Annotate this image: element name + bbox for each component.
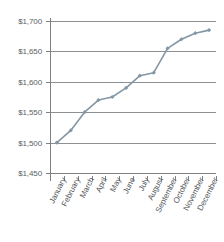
line-chart: $1,450$1,500$1,550$1,600$1,650$1,700 Jan… xyxy=(0,0,224,242)
y-axis-labels: $1,450$1,500$1,550$1,600$1,650$1,700 xyxy=(0,0,46,242)
y-axis-tick-label: $1,650 xyxy=(18,47,42,56)
y-axis-tick-label: $1,600 xyxy=(18,77,42,86)
series-line xyxy=(57,30,209,142)
y-axis-tick-label: $1,550 xyxy=(18,108,42,117)
y-axis-tick-label: $1,700 xyxy=(18,17,42,26)
x-axis-tick-label-text: June xyxy=(121,176,137,195)
y-axis-tick-label: $1,500 xyxy=(18,138,42,147)
x-axis-labels: JanuaryFebruaryMarchAprilMayJuneJulyAugu… xyxy=(50,176,224,242)
data-point-marker xyxy=(207,28,211,32)
y-axis-tick-label: $1,450 xyxy=(18,169,42,178)
y-axis-tick xyxy=(46,173,51,174)
